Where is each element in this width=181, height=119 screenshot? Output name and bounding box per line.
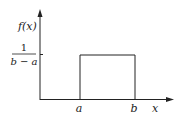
y-axis-arrow-icon (38, 9, 43, 17)
height-denominator: b − a (10, 56, 37, 67)
x-tick-b: b (130, 102, 137, 115)
height-numerator: 1 (21, 42, 27, 53)
y-axis-label: f(x) (17, 20, 37, 33)
uniform-distribution-diagram: f(x) 1 b − a a b x (0, 0, 181, 119)
x-axis-label: x (152, 102, 159, 115)
x-tick-a: a (76, 102, 83, 115)
x-axis-arrow-icon (166, 97, 174, 102)
density-rectangle (80, 55, 135, 100)
